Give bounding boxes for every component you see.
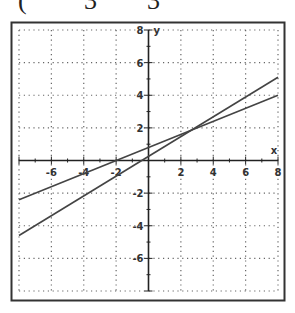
y-tick-label: 4 [137, 90, 144, 101]
x-tick-label: 2 [177, 167, 184, 178]
y-tick-label: 8 [137, 25, 144, 36]
y-tick-label: -2 [132, 188, 143, 199]
y-tick-label: 6 [137, 58, 144, 69]
y-tick-label: 2 [137, 123, 144, 134]
line-chart: -6-4-224688642-2-4-6xy [0, 0, 295, 313]
y-tick-label: -4 [132, 221, 143, 232]
x-tick-label: 8 [275, 167, 282, 178]
axes: -6-4-224688642-2-4-6xy [19, 25, 282, 291]
x-tick-label: -6 [46, 167, 57, 178]
y-axis-label: y [154, 25, 161, 36]
y-tick-label: -6 [132, 253, 143, 264]
x-axis-label: x [271, 145, 278, 156]
x-tick-label: 6 [242, 167, 249, 178]
x-tick-label: 4 [210, 167, 217, 178]
